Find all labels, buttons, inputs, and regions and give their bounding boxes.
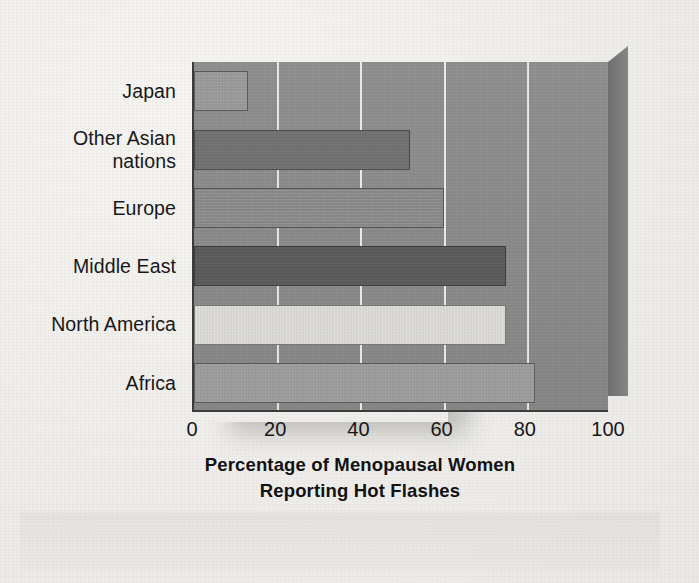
value-axis-title: Percentage of Menopausal WomenReporting … bbox=[150, 452, 570, 505]
gridline-20 bbox=[277, 62, 279, 410]
bar-texture bbox=[195, 72, 247, 110]
xtick-label-100: 100 bbox=[591, 418, 624, 441]
bar-texture bbox=[195, 131, 409, 169]
xtick-label-80: 80 bbox=[514, 418, 536, 441]
value-axis-title-line: Percentage of Menopausal Women bbox=[150, 452, 570, 478]
category-label-north-america: North America bbox=[51, 313, 176, 336]
category-label-japan: Japan bbox=[122, 80, 176, 103]
category-label-other-asian-nations: Other Asiannations bbox=[73, 127, 176, 172]
category-axis-labels: JapanOther AsiannationsEuropeMiddle East… bbox=[0, 62, 184, 412]
bar-texture bbox=[195, 189, 443, 227]
category-label-line: North America bbox=[51, 313, 176, 336]
value-axis-title-line: Reporting Hot Flashes bbox=[150, 478, 570, 504]
xtick-label-40: 40 bbox=[347, 418, 369, 441]
bar-texture bbox=[195, 247, 505, 285]
plot-area bbox=[192, 62, 608, 412]
bar-north-america[interactable] bbox=[194, 305, 506, 345]
scan-artifact-band bbox=[20, 512, 660, 570]
bar-japan[interactable] bbox=[194, 71, 248, 111]
gridline-40 bbox=[360, 62, 362, 410]
category-label-line: nations bbox=[73, 150, 176, 173]
bar-europe[interactable] bbox=[194, 188, 444, 228]
bar-other-asian-nations[interactable] bbox=[194, 130, 410, 170]
xtick-label-0: 0 bbox=[186, 418, 197, 441]
xtick-label-60: 60 bbox=[430, 418, 452, 441]
category-label-line: Africa bbox=[126, 372, 176, 395]
category-label-line: Japan bbox=[122, 80, 176, 103]
xtick-label-20: 20 bbox=[264, 418, 286, 441]
category-label-africa: Africa bbox=[126, 372, 176, 395]
bar-texture bbox=[195, 364, 534, 402]
category-label-line: Middle East bbox=[73, 255, 176, 278]
value-axis-tick-labels: 020406080100 bbox=[0, 418, 699, 448]
category-label-middle-east: Middle East bbox=[73, 255, 176, 278]
bar-middle-east[interactable] bbox=[194, 246, 506, 286]
gridline-60 bbox=[444, 62, 446, 410]
category-label-line: Europe bbox=[113, 197, 176, 220]
bar-africa[interactable] bbox=[194, 363, 535, 403]
category-label-europe: Europe bbox=[113, 197, 176, 220]
bar-chart-figure: JapanOther AsiannationsEuropeMiddle East… bbox=[0, 0, 699, 583]
gridline-80 bbox=[527, 62, 529, 410]
category-label-line: Other Asian bbox=[73, 127, 176, 150]
bar-texture bbox=[195, 306, 505, 344]
plot-3d-side-face bbox=[608, 46, 628, 396]
plot-area-3d-shell bbox=[192, 62, 608, 412]
